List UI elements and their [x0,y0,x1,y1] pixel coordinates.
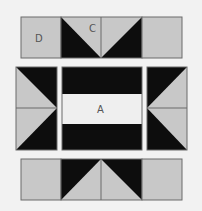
corner-square-bottom-left [21,159,61,200]
label-a: A [97,104,104,115]
middle-row: A [16,67,187,150]
quilt-diagram: D C A [0,0,202,211]
bottom-row [21,159,182,200]
corner-square-top-right [142,17,182,58]
top-row: D C [21,17,182,58]
corner-square-bottom-right [142,159,182,200]
label-d: D [35,33,43,44]
label-c: C [89,23,96,34]
